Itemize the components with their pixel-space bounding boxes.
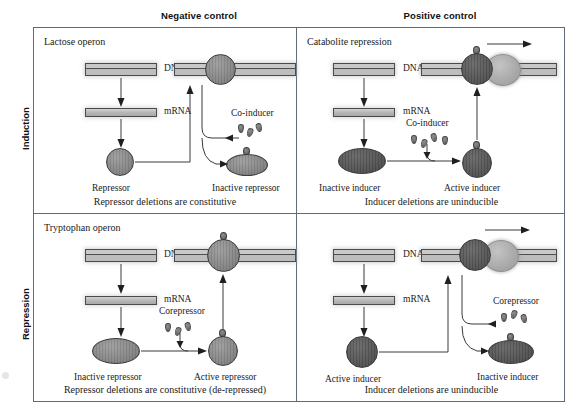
row-label-repression: Repression: [20, 288, 31, 340]
panel-bottom-left: Tryptophan operon DNA mRNA Inactive repr…: [34, 214, 296, 403]
panel-top-left-connectors: [34, 28, 296, 213]
page-edge-artifact: [2, 372, 9, 379]
panel-top-right: Catabolite repression DNA mRNA Inactive …: [297, 28, 566, 213]
row-label-induction: Induction: [20, 107, 31, 150]
column-header-negative-control: Negative control: [139, 10, 259, 21]
panel-top-left: Lactose operon DNA mRNA Repressor Co-ind…: [34, 28, 296, 213]
panel-caption: Inducer deletions are uninducible: [297, 384, 566, 395]
panel-caption: Inducer deletions are uninducible: [297, 196, 566, 207]
panel-bottom-left-connectors: [34, 214, 296, 403]
panel-caption: Repressor deletions are constitutive (de…: [34, 384, 296, 395]
panel-bottom-right: DNA mRNA Active inducer Corepressor Inac…: [297, 214, 566, 403]
figure-frame: Lactose operon DNA mRNA Repressor Co-ind…: [33, 27, 565, 402]
panel-bottom-right-connectors: [297, 214, 566, 403]
panel-caption: Repressor deletions are constitutive: [34, 196, 296, 207]
panel-top-right-connectors: [297, 28, 566, 213]
column-header-positive-control: Positive control: [380, 10, 500, 21]
